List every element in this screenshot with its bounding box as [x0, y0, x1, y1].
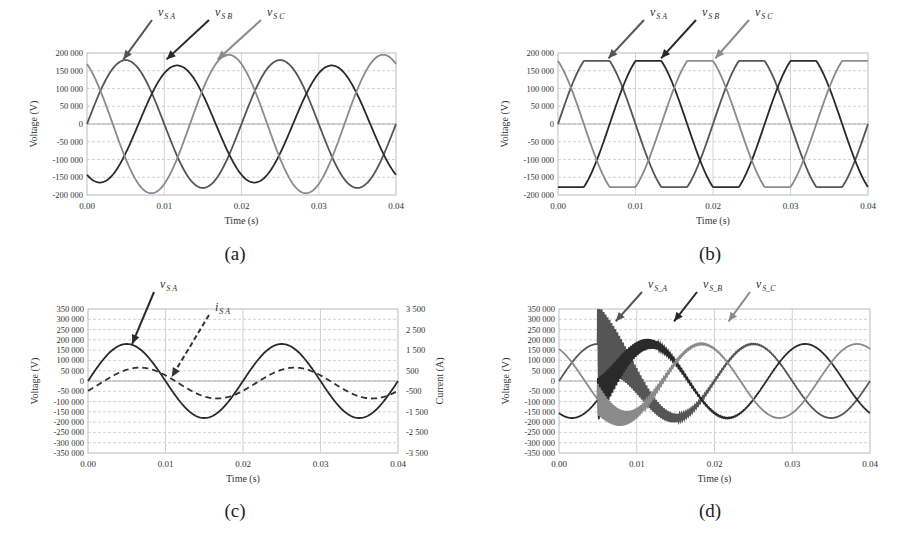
- chart-panel-a: 200 000150 000100 00050 0000-50 000-100 …: [0, 0, 450, 240]
- y-axis-label: Voltage (V): [28, 101, 40, 148]
- y2-tick-label: 3 500: [406, 304, 425, 314]
- y-tick-label: 0: [80, 376, 84, 386]
- y2-tick-label: -500: [406, 386, 422, 396]
- annotation-label: vS_B: [703, 277, 722, 293]
- x-axis-label: Time (s): [696, 215, 730, 227]
- y-tick-label: 0: [551, 376, 555, 386]
- y-tick-label: 50 000: [531, 101, 554, 111]
- y-axis-label: Voltage (V): [499, 101, 511, 148]
- y-tick-label: 350 000: [56, 304, 84, 314]
- y-tick-label: 50 000: [61, 366, 84, 376]
- y2-axis-label: Current (A): [434, 358, 446, 405]
- arrow-head-icon: [728, 312, 737, 322]
- x-tick-label: 0.04: [860, 201, 876, 211]
- chart-c-svg: 350 000300 000250 000200 000150 000100 0…: [0, 270, 450, 510]
- annotation-subscript: S C: [273, 12, 285, 21]
- annotation-subscript: S A: [656, 12, 667, 21]
- annotation-subscript: S_B: [709, 284, 722, 293]
- y-tick-label: 150 000: [56, 345, 84, 355]
- x-tick-label: 0.01: [156, 201, 172, 211]
- y-tick-label: -100 000: [53, 155, 83, 165]
- x-tick-label: 0.03: [784, 459, 800, 469]
- arrow-head-icon: [123, 50, 132, 60]
- x-tick-label: 0.03: [311, 201, 327, 211]
- y-tick-label: -100 000: [524, 155, 554, 165]
- y-tick-label: -150 000: [54, 407, 84, 417]
- x-tick-label: 0.02: [707, 459, 723, 469]
- chart-panel-c: 350 000300 000250 000200 000150 000100 0…: [0, 270, 450, 510]
- annotation-subscript: S_C: [762, 284, 776, 293]
- x-tick-label: 0.00: [80, 459, 96, 469]
- y-tick-label: -200 000: [524, 190, 554, 200]
- y-tick-label: 300 000: [527, 314, 555, 324]
- annotation-label: vS_C: [756, 277, 776, 293]
- x-tick-label: 0.04: [390, 459, 406, 469]
- y-tick-label: 250 000: [527, 325, 555, 335]
- y-tick-label: -250 000: [525, 427, 555, 437]
- y-tick-label: -200 000: [53, 190, 83, 200]
- y-tick-label: 150 000: [55, 66, 83, 76]
- caption-b: (b): [680, 243, 740, 265]
- annotation-subscript: S B: [221, 12, 232, 21]
- x-tick-label: 0.02: [235, 459, 251, 469]
- y-tick-label: 150 000: [526, 66, 554, 76]
- y2-tick-label: 2 500: [406, 325, 425, 335]
- y-tick-label: 100 000: [56, 355, 84, 365]
- y-tick-label: 50 000: [532, 366, 555, 376]
- y-tick-label: 200 000: [55, 48, 83, 58]
- y-axis-label: Voltage (V): [500, 358, 512, 405]
- y-tick-label: 250 000: [56, 325, 84, 335]
- chart-b-svg: 200 000150 000100 00050 0000-50 000-100 …: [450, 0, 900, 240]
- y-tick-label: 200 000: [527, 335, 555, 345]
- y-tick-label: -150 000: [525, 407, 555, 417]
- x-tick-label: 0.03: [313, 459, 329, 469]
- annotation-subscript: S_A: [654, 284, 667, 293]
- y-tick-label: 100 000: [527, 355, 555, 365]
- x-tick-label: 0.01: [158, 459, 174, 469]
- annotation-subscript: S A: [166, 284, 177, 293]
- x-tick-label: 0.03: [783, 201, 799, 211]
- y-tick-label: -350 000: [525, 448, 555, 458]
- y-tick-label: -50 000: [528, 137, 554, 147]
- y-tick-label: -50 000: [529, 386, 555, 396]
- x-axis-label: Time (s): [225, 215, 259, 227]
- annotation-label: vS_A: [648, 277, 667, 293]
- y-tick-label: 0: [79, 119, 83, 129]
- x-axis-label: Time (s): [698, 473, 732, 485]
- caption-d: (d): [680, 500, 740, 522]
- x-tick-label: 0.04: [388, 201, 404, 211]
- y2-tick-label: -1 500: [406, 407, 428, 417]
- annotation-subscript: S C: [761, 12, 773, 21]
- x-tick-label: 0.00: [550, 201, 566, 211]
- x-tick-label: 0.01: [628, 201, 644, 211]
- caption-c: (c): [205, 500, 265, 522]
- arrow-head-icon: [172, 367, 180, 377]
- y-tick-label: -350 000: [54, 448, 84, 458]
- y-tick-label: -300 000: [525, 438, 555, 448]
- y-tick-label: -150 000: [53, 172, 83, 182]
- y-tick-label: -200 000: [525, 417, 555, 427]
- y-tick-label: -50 000: [58, 386, 84, 396]
- y2-tick-label: 500: [406, 366, 419, 376]
- y-tick-label: -200 000: [54, 417, 84, 427]
- x-tick-label: 0.00: [79, 201, 95, 211]
- annotation-subscript: S B: [708, 12, 719, 21]
- y-axis-label: Voltage (V): [29, 358, 41, 405]
- y-tick-label: 0: [550, 119, 554, 129]
- y-tick-label: 50 000: [60, 101, 83, 111]
- annotation-label: vS C: [267, 5, 285, 21]
- y-tick-label: -100 000: [525, 397, 555, 407]
- annotation-arrow: [172, 315, 209, 377]
- annotation-label: vS A: [158, 5, 175, 21]
- chart-panel-b: 200 000150 000100 00050 0000-50 000-100 …: [450, 0, 900, 240]
- x-tick-label: 0.01: [629, 459, 645, 469]
- y-tick-label: 200 000: [56, 335, 84, 345]
- y-tick-label: -300 000: [54, 438, 84, 448]
- y-tick-label: -50 000: [57, 137, 83, 147]
- chart-panel-d: 350 000300 000250 000200 000150 000100 0…: [450, 270, 900, 510]
- caption-a: (a): [205, 243, 265, 265]
- y2-tick-label: -2 500: [406, 427, 428, 437]
- y-tick-label: -250 000: [54, 427, 84, 437]
- y-tick-label: 350 000: [527, 304, 555, 314]
- y2-tick-label: 1 500: [406, 345, 425, 355]
